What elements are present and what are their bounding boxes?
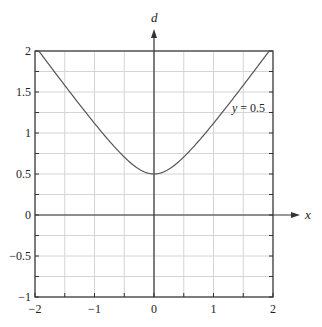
- x-tick-label: −1: [88, 302, 101, 316]
- x-tick-labels: −2−1012: [29, 302, 276, 316]
- x-tick-label: −2: [29, 302, 42, 316]
- y-tick-label: −1: [18, 290, 31, 304]
- y-tick-label: 1: [25, 126, 31, 140]
- y-tick-label: 1.5: [16, 85, 31, 99]
- line-chart: −2−1012 −1−0.500.511.52 x d y = 0.5: [0, 0, 322, 327]
- annotation-value: = 0.5: [237, 101, 265, 115]
- x-axis-arrow-icon: [291, 212, 300, 218]
- x-tick-label: 1: [211, 302, 217, 316]
- x-axis-label: x: [304, 207, 311, 222]
- curve-annotation: y = 0.5: [231, 101, 265, 115]
- x-tick-label: 0: [151, 302, 157, 316]
- y-axis-arrow-icon: [151, 29, 157, 38]
- y-tick-label: 0.5: [16, 167, 31, 181]
- y-tick-label: 0: [25, 208, 31, 222]
- y-tick-label: −0.5: [9, 249, 31, 263]
- y-axis-label: d: [151, 10, 158, 25]
- x-tick-label: 2: [270, 302, 276, 316]
- y-tick-labels: −1−0.500.511.52: [9, 44, 31, 304]
- y-tick-label: 2: [25, 44, 31, 58]
